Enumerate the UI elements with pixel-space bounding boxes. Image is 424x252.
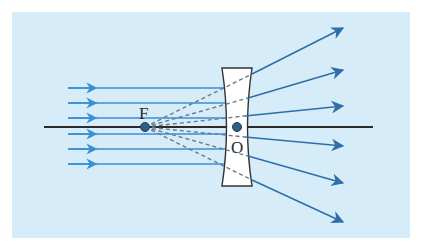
focus-label: F [139,104,148,123]
background-panel [12,12,410,238]
optical-center-label: O [231,138,243,157]
optical-center-point [233,123,242,132]
focus-point [141,123,150,132]
diverging-lens-diagram: F O [0,0,424,252]
